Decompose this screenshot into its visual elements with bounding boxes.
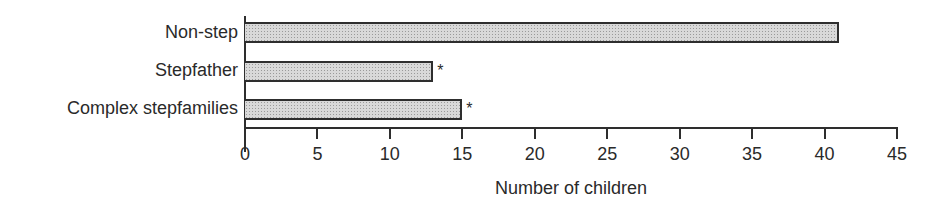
significance-marker: * xyxy=(466,100,472,118)
x-tick xyxy=(534,127,536,139)
bar xyxy=(245,22,839,43)
x-tick-label: 20 xyxy=(525,144,545,165)
x-tick-label: 35 xyxy=(742,144,762,165)
bar-chart: Non-stepStepfather*Complex stepfamilies*… xyxy=(0,0,931,208)
x-axis xyxy=(244,127,898,129)
category-label: Complex stepfamilies xyxy=(67,98,238,119)
category-label: Non-step xyxy=(165,22,238,43)
x-tick xyxy=(679,127,681,139)
x-tick-label: 0 xyxy=(240,144,250,165)
x-tick-label: 40 xyxy=(815,144,835,165)
x-tick xyxy=(606,127,608,139)
x-tick-label: 30 xyxy=(670,144,690,165)
bar xyxy=(245,99,462,120)
x-tick xyxy=(461,127,463,139)
x-tick xyxy=(751,127,753,139)
category-label: Stepfather xyxy=(155,60,238,81)
x-tick xyxy=(896,127,898,139)
x-tick xyxy=(824,127,826,139)
x-tick-label: 5 xyxy=(312,144,322,165)
x-tick xyxy=(316,127,318,139)
bar xyxy=(245,61,433,82)
x-tick xyxy=(389,127,391,139)
x-tick xyxy=(244,127,246,139)
x-axis-title: Number of children xyxy=(495,178,647,199)
x-tick-label: 10 xyxy=(380,144,400,165)
x-tick-label: 25 xyxy=(597,144,617,165)
significance-marker: * xyxy=(437,62,443,80)
x-tick-label: 15 xyxy=(452,144,472,165)
x-tick-label: 45 xyxy=(887,144,907,165)
